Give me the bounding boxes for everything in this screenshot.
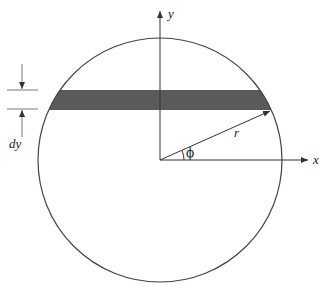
radius-label: r — [234, 125, 240, 140]
y-axis-label: y — [166, 6, 174, 21]
diagram-canvas: y x r ϕ dy — [0, 0, 326, 289]
angle-label: ϕ — [186, 146, 194, 160]
dy-dimension — [7, 64, 38, 137]
radius-line — [160, 111, 270, 160]
differential-strip — [30, 90, 300, 110]
dy-label: dy — [9, 136, 22, 151]
x-axis-label: x — [312, 152, 319, 167]
angle-arc — [182, 151, 184, 161]
